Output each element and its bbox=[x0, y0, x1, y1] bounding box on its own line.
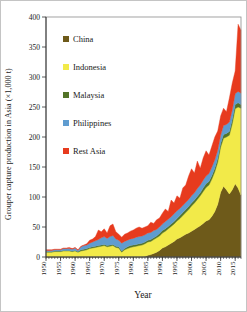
y-tick-label: 350 bbox=[29, 43, 41, 52]
y-tick-label: 250 bbox=[29, 103, 41, 112]
y-tick-label: 50 bbox=[33, 223, 41, 232]
x-tick-label: 1950 bbox=[40, 261, 48, 276]
x-tick-label: 1970 bbox=[98, 261, 106, 276]
legend-label: Philippines bbox=[73, 118, 111, 128]
philippines-swatch-icon bbox=[63, 120, 69, 126]
legend-label: Malaysia bbox=[73, 90, 104, 100]
x-tick-label: 1960 bbox=[69, 261, 77, 276]
malaysia-swatch-icon bbox=[63, 92, 69, 98]
legend-label: China bbox=[73, 34, 93, 44]
y-tick-label: 200 bbox=[29, 133, 41, 142]
legend-item-malaysia: Malaysia bbox=[63, 90, 104, 100]
legend-label: Rest Asia bbox=[73, 146, 105, 156]
x-tick-label: 2015 bbox=[229, 261, 237, 276]
legend-item-china: China bbox=[63, 34, 93, 44]
y-tick-label: 300 bbox=[29, 73, 41, 82]
x-tick-label: 1995 bbox=[171, 261, 179, 276]
x-tick-label: 2000 bbox=[186, 261, 194, 276]
legend-item-philippines: Philippines bbox=[63, 118, 111, 128]
x-tick-label: 1990 bbox=[156, 261, 164, 276]
stacked-area-chart: 0501001502002503003504001950195519601965… bbox=[1, 1, 247, 312]
legend-label: Indonesia bbox=[73, 62, 106, 72]
legend-item-rest-asia: Rest Asia bbox=[63, 146, 105, 156]
x-tick-label: 1980 bbox=[127, 261, 135, 276]
x-tick-label: 1985 bbox=[142, 261, 150, 276]
rest-asia-swatch-icon bbox=[63, 148, 69, 154]
legend-item-indonesia: Indonesia bbox=[63, 62, 106, 72]
x-tick-label: 1965 bbox=[84, 261, 92, 276]
x-tick-label: 2010 bbox=[215, 261, 223, 276]
x-tick-label: 2005 bbox=[200, 261, 208, 276]
y-axis-title: Grouper capture production in Asia (×1,0… bbox=[4, 68, 13, 220]
indonesia-swatch-icon bbox=[63, 64, 69, 70]
y-tick-label: 150 bbox=[29, 163, 41, 172]
x-tick-label: 1955 bbox=[55, 261, 63, 276]
y-tick-label: 0 bbox=[36, 253, 40, 262]
y-tick-label: 100 bbox=[29, 193, 41, 202]
china-swatch-icon bbox=[63, 36, 69, 42]
x-axis-title: Year bbox=[134, 290, 152, 300]
y-tick-label: 400 bbox=[29, 13, 41, 22]
grouper-production-figure: 0501001502002503003504001950195519601965… bbox=[0, 0, 247, 312]
x-tick-label: 1975 bbox=[113, 261, 121, 276]
